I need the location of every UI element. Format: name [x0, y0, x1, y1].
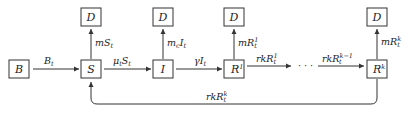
node-s: S — [81, 60, 101, 78]
svg-text:D: D — [158, 11, 168, 24]
node-d-r1: D — [224, 8, 244, 26]
label-i-d: mcIt — [167, 37, 186, 50]
compartment-diagram: B S I R1 Rk D D D D Bt μtSt γIt rkR1t · … — [0, 0, 408, 113]
node-r1: R1 — [224, 60, 244, 78]
label-r1-d: mR1t — [238, 36, 258, 50]
node-d-rk: D — [367, 8, 387, 26]
svg-text:D: D — [372, 11, 382, 24]
label-i-r1: γIt — [194, 55, 206, 68]
node-d-i: D — [153, 8, 173, 26]
node-rk: Rk — [367, 60, 387, 78]
ellipsis: · · · — [298, 60, 313, 71]
label-s-d: mSt — [95, 37, 114, 50]
label-rk-d: mRkt — [381, 35, 401, 49]
label-dots-rk: rkRk−1t — [322, 52, 353, 66]
node-d-s: D — [81, 8, 101, 26]
node-i: I — [153, 60, 173, 78]
label-r1-dots: rkR1t — [256, 52, 278, 66]
svg-text:D: D — [86, 11, 96, 24]
node-b: B — [9, 60, 29, 78]
svg-text:D: D — [229, 11, 239, 24]
arrow-rk-s-feedback — [91, 79, 377, 104]
label-b-s: Bt — [43, 55, 54, 68]
svg-text:I: I — [160, 63, 166, 76]
label-rk-s: rkRkt — [206, 90, 227, 104]
svg-text:S: S — [87, 63, 95, 76]
svg-text:B: B — [14, 63, 23, 76]
label-s-i: μtSt — [113, 55, 131, 68]
